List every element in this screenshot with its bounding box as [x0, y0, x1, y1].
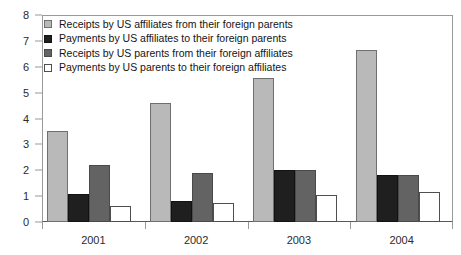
legend-item-label: Payments by US parents to their foreign … [59, 62, 286, 73]
y-axis-tick-mark [35, 170, 42, 171]
legend-item: Receipts by US affiliates from their for… [44, 17, 324, 31]
y-axis-tick-label: 2 [23, 165, 29, 176]
bar [316, 195, 337, 222]
y-axis-tick-label: 7 [23, 35, 29, 46]
x-axis-tick-label: 2003 [287, 235, 311, 246]
legend-item-label: Receipts by US affiliates from their for… [59, 19, 293, 30]
y-axis-tick-label: 3 [23, 139, 29, 150]
x-axis-tick-label: 2001 [81, 235, 105, 246]
bar [150, 103, 171, 222]
bar [356, 50, 377, 222]
y-axis-tick-mark [35, 222, 42, 223]
bar [274, 170, 295, 222]
bar [377, 175, 398, 222]
y-axis-tick-label: 6 [23, 61, 29, 72]
y-axis-tick-mark [35, 118, 42, 119]
legend-item-label: Payments by US affiliates to their forei… [59, 33, 286, 44]
legend-item: Receipts by US parents from their foreig… [44, 46, 324, 60]
legend-item: Payments by US affiliates to their forei… [44, 32, 324, 46]
legend-item: Payments by US parents to their foreign … [44, 61, 324, 75]
x-axis: 2001200220032004 [42, 222, 453, 255]
bar [398, 175, 419, 222]
bar [89, 165, 110, 222]
legend-swatch-icon [44, 20, 52, 28]
bar [295, 170, 316, 222]
x-axis-tick-label: 2002 [184, 235, 208, 246]
x-axis-tick-mark [452, 222, 453, 229]
legend-swatch-icon [44, 64, 52, 72]
chart-legend: Receipts by US affiliates from their for… [44, 17, 324, 75]
bar [68, 194, 89, 222]
bar [253, 78, 274, 222]
y-axis-tick-label: 8 [23, 10, 29, 21]
y-axis-tick-label: 4 [23, 113, 29, 124]
bar [419, 192, 440, 222]
x-axis-tick-label: 2004 [389, 235, 413, 246]
legend-swatch-icon [44, 35, 52, 43]
x-axis-tick-mark [248, 222, 249, 229]
y-axis: 012345678 [0, 0, 42, 255]
y-axis-tick-mark [35, 92, 42, 93]
bar [47, 131, 68, 222]
x-axis-tick-mark [42, 222, 43, 229]
y-axis-tick-mark [35, 15, 42, 16]
y-axis-tick-mark [35, 144, 42, 145]
y-axis-tick-label: 0 [23, 217, 29, 228]
bar-chart: 012345678 2001200220032004 Receipts by U… [0, 0, 461, 255]
y-axis-tick-mark [35, 40, 42, 41]
x-axis-tick-mark [350, 222, 351, 229]
bar [110, 206, 131, 222]
x-axis-tick-mark [145, 222, 146, 229]
legend-item-label: Receipts by US parents from their foreig… [59, 48, 293, 59]
y-axis-tick-label: 1 [23, 191, 29, 202]
y-axis-tick-mark [35, 66, 42, 67]
y-axis-tick-mark [35, 196, 42, 197]
legend-swatch-icon [44, 49, 52, 57]
bar [192, 173, 213, 222]
y-axis-tick-label: 5 [23, 87, 29, 98]
bar [171, 201, 192, 222]
bar [213, 203, 234, 222]
